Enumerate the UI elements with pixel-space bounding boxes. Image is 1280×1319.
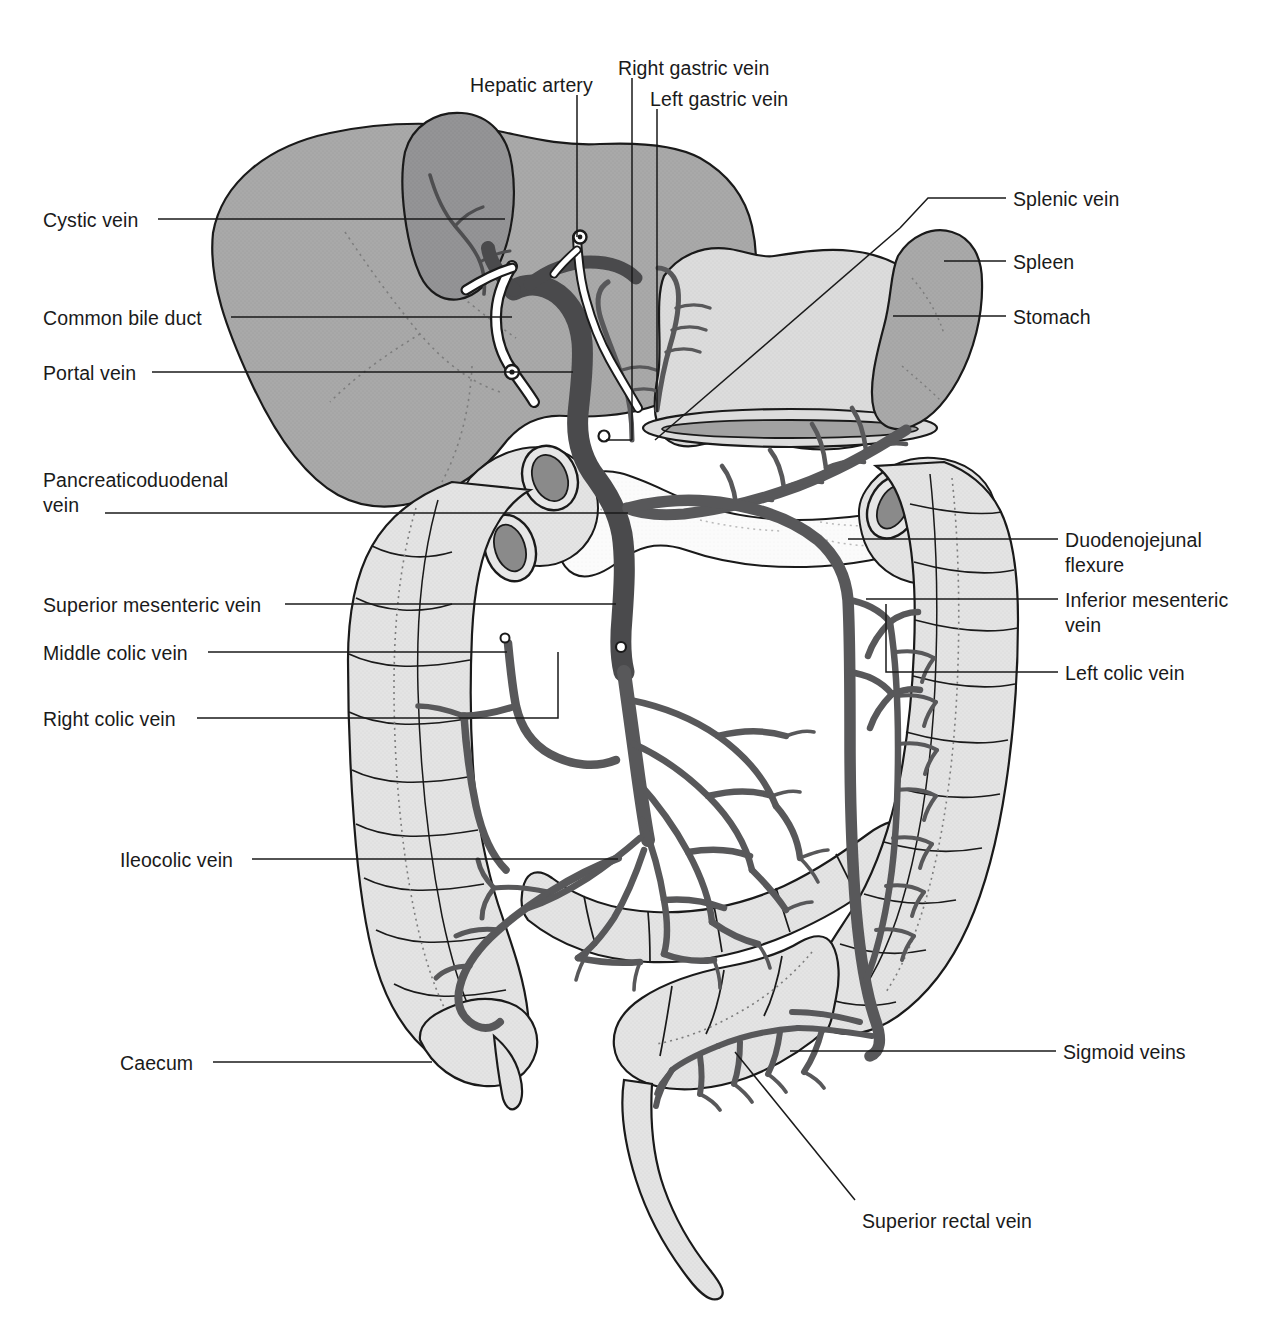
label-left-colic-vein: Left colic vein <box>1065 661 1185 686</box>
label-middle-colic-vein: Middle colic vein <box>43 641 188 666</box>
label-duodenojejunal-flexure: Duodenojejunal flexure <box>1065 528 1202 578</box>
anatomy-figure-page: Cystic vein Common bile duct Portal vein… <box>0 0 1280 1319</box>
label-pancreaticoduodenal-vein: Pancreaticoduodenal vein <box>43 468 228 518</box>
label-caecum: Caecum <box>120 1051 193 1076</box>
label-superior-rectal-vein: Superior rectal vein <box>862 1209 1032 1234</box>
superior-mesenteric-vein <box>624 672 648 840</box>
label-inferior-mesenteric-vein: Inferior mesenteric vein <box>1065 588 1228 638</box>
label-right-gastric-vein: Right gastric vein <box>618 56 769 81</box>
label-common-bile-duct: Common bile duct <box>43 306 202 331</box>
middle-colic-vein <box>508 643 616 765</box>
label-right-colic-vein: Right colic vein <box>43 707 176 732</box>
label-stomach: Stomach <box>1013 305 1091 330</box>
label-portal-vein: Portal vein <box>43 361 136 386</box>
leader-superior-rectal-vein <box>735 1052 855 1200</box>
label-left-gastric-vein: Left gastric vein <box>650 87 788 112</box>
leader-splenic-vein <box>900 198 1006 228</box>
label-cystic-vein: Cystic vein <box>43 208 138 233</box>
label-spleen: Spleen <box>1013 250 1074 275</box>
rectum <box>623 1080 723 1299</box>
label-superior-mesenteric-vein: Superior mesenteric vein <box>43 593 261 618</box>
caecum-appendix <box>420 999 537 1109</box>
label-splenic-vein: Splenic vein <box>1013 187 1119 212</box>
label-ileocolic-vein: Ileocolic vein <box>120 848 233 873</box>
label-hepatic-artery: Hepatic artery <box>470 73 593 98</box>
label-sigmoid-veins: Sigmoid veins <box>1063 1040 1186 1065</box>
